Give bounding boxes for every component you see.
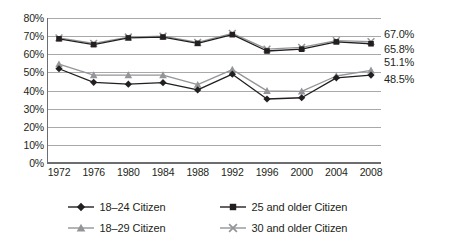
- diamond-marker-icon: [67, 201, 95, 213]
- y-axis-tick-label: 10%: [4, 140, 44, 151]
- x-axis-tick-label: 2008: [360, 166, 383, 178]
- legend-row-2: 18–29 Citizen 30 and older Citizen: [0, 217, 461, 238]
- series-layer: [47, 18, 381, 163]
- end-value-label: 48.5%: [384, 74, 414, 85]
- end-value-label: 51.1%: [384, 57, 414, 68]
- x-axis-tick-label: 1972: [48, 166, 71, 178]
- series-x: [56, 30, 375, 53]
- y-axis-tick-label: 50%: [4, 67, 44, 78]
- x-axis-labels: 1972197619801984198819921996200020042008: [47, 166, 381, 182]
- triangle-marker-icon: [67, 222, 95, 234]
- y-axis-tick-label: 0%: [4, 158, 44, 169]
- legend-label: 18–24 Citizen: [100, 201, 166, 213]
- y-axis-tick-label: 40%: [4, 86, 44, 97]
- legend-label: 25 and older Citizen: [252, 201, 348, 213]
- y-axis-tick-label: 80%: [4, 13, 44, 24]
- end-value-label: 67.0%: [384, 29, 414, 40]
- chart-legend: 18–24 Citizen 25 and older Citizen 18–29…: [0, 196, 461, 242]
- x-axis-tick-label: 1980: [117, 166, 140, 178]
- x-axis-tick-label: 1976: [82, 166, 105, 178]
- x-axis-tick-label: 1996: [256, 166, 279, 178]
- x-axis-tick-label: 1988: [186, 166, 209, 178]
- y-axis-tick-label: 60%: [4, 49, 44, 60]
- y-axis-labels: 80%70%60%50%40%30%20%10%0%: [0, 18, 44, 163]
- x-marker-icon: [219, 222, 247, 234]
- y-axis-tick-label: 20%: [4, 122, 44, 133]
- line-chart: 80%70%60%50%40%30%20%10%0% 1972197619801…: [0, 0, 461, 252]
- legend-item-30-and-older-citizen[interactable]: 30 and older Citizen: [219, 222, 395, 234]
- y-axis-tick-label: 30%: [4, 104, 44, 115]
- end-value-label: 65.8%: [384, 44, 414, 55]
- square-marker-icon: [219, 201, 247, 213]
- x-axis-tick-label: 2000: [290, 166, 313, 178]
- gridline: [47, 163, 381, 164]
- end-value-annotations: 67.0%65.8%51.1%48.5%: [384, 18, 461, 163]
- plot-area: [47, 18, 381, 163]
- legend-label: 18–29 Citizen: [100, 222, 166, 234]
- legend-item-25-and-older-citizen[interactable]: 25 and older Citizen: [219, 201, 395, 213]
- series-triangle: [55, 60, 375, 94]
- legend-item-18-29-citizen[interactable]: 18–29 Citizen: [67, 222, 219, 234]
- x-axis-tick-label: 1984: [152, 166, 175, 178]
- series-diamond: [55, 65, 374, 102]
- x-axis-tick-label: 2004: [325, 166, 348, 178]
- legend-item-18-24-citizen[interactable]: 18–24 Citizen: [67, 201, 219, 213]
- x-axis-tick-label: 1992: [221, 166, 244, 178]
- legend-row-1: 18–24 Citizen 25 and older Citizen: [0, 196, 461, 217]
- legend-label: 30 and older Citizen: [252, 222, 348, 234]
- y-axis-tick-label: 70%: [4, 31, 44, 42]
